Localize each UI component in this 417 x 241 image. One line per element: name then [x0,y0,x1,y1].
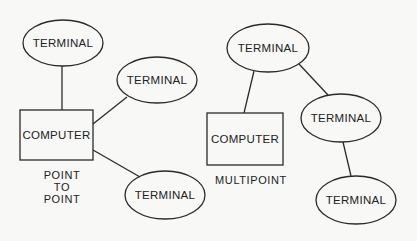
computer-node: COMPUTER [207,113,283,165]
point-to-point-diagram: TERMINAL TERMINAL TERMINAL COMPUTER POIN… [20,20,205,219]
network-topology-diagram: TERMINAL TERMINAL TERMINAL COMPUTER POIN… [0,0,417,241]
computer-node: COMPUTER [20,110,93,160]
terminal-node: TERMINAL [117,57,197,103]
terminal-label: TERMINAL [326,194,387,206]
caption-line: POINT [44,169,81,181]
multipoint-diagram: TERMINAL TERMINAL TERMINAL COMPUTER MULT… [207,24,396,224]
terminal-label: TERMINAL [238,42,299,54]
edge-computer-terminal3 [93,150,140,177]
diagram-caption: POINT TO POINT [44,169,81,205]
edge-terminal1-computer [244,71,254,113]
terminal-node: TERMINAL [125,171,205,219]
terminal-label: TERMINAL [135,189,196,201]
diagram-svg: TERMINAL TERMINAL TERMINAL COMPUTER POIN… [0,0,417,241]
terminal-label: TERMINAL [33,37,94,49]
edge-computer-terminal2 [93,97,127,124]
terminal-node: TERMINAL [227,24,309,72]
caption-line: TO [54,181,70,193]
terminal-node: TERMINAL [23,20,103,66]
caption-line: MULTIPOINT [215,174,287,186]
edge-terminal2-terminal3 [343,142,351,176]
computer-label: COMPUTER [22,129,90,141]
caption-line: POINT [44,193,81,205]
terminal-label: TERMINAL [127,74,188,86]
terminal-node: TERMINAL [301,94,381,142]
edge-terminal1-terminal2 [299,64,328,95]
computer-label: COMPUTER [211,133,279,145]
terminal-label: TERMINAL [311,112,372,124]
diagram-caption: MULTIPOINT [215,174,287,186]
terminal-node: TERMINAL [316,176,396,224]
